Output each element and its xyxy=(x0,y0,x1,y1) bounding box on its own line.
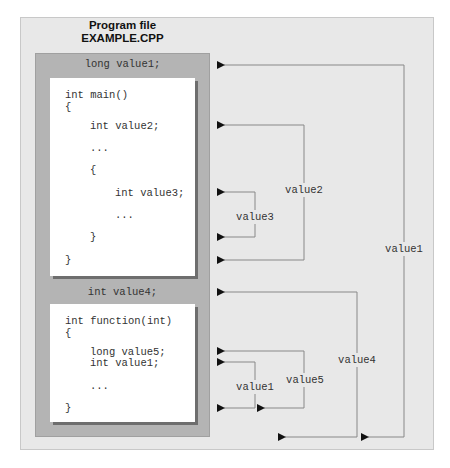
scope-arrows xyxy=(0,0,450,468)
scope-label-value1-local: value1 xyxy=(234,380,276,394)
scope-label-value3: value3 xyxy=(234,210,276,224)
scope-label-value2: value2 xyxy=(283,183,325,197)
scope-label-value5: value5 xyxy=(284,373,326,387)
scope-label-value1-global: value1 xyxy=(383,242,425,256)
scope-label-value4: value4 xyxy=(336,353,378,367)
